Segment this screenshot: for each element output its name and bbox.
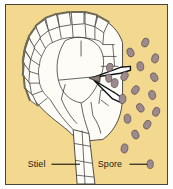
diagram-frame: Stiel Spore bbox=[5, 4, 168, 185]
spore-12 bbox=[151, 106, 160, 117]
spore-9 bbox=[148, 90, 157, 101]
spore-2 bbox=[126, 47, 135, 58]
fungal-basidium-diagram: Stiel Spore bbox=[0, 0, 173, 189]
spore-15 bbox=[131, 129, 140, 140]
spore-17 bbox=[147, 160, 153, 169]
spore-1 bbox=[141, 37, 150, 48]
spore-13 bbox=[124, 114, 131, 124]
spore-14 bbox=[142, 119, 152, 130]
label-stiel: Stiel bbox=[28, 159, 46, 169]
spore-16 bbox=[120, 143, 128, 153]
spore-6 bbox=[149, 72, 159, 83]
spore-3 bbox=[151, 53, 160, 64]
spore-8 bbox=[130, 84, 140, 95]
diagram-canvas: Stiel Spore bbox=[6, 5, 167, 184]
label-stiel-group: Stiel bbox=[28, 159, 80, 169]
label-spore: Spore bbox=[98, 159, 122, 169]
spore-4 bbox=[136, 61, 144, 71]
label-spore-group: Spore bbox=[98, 159, 147, 169]
spore-11 bbox=[135, 102, 145, 113]
